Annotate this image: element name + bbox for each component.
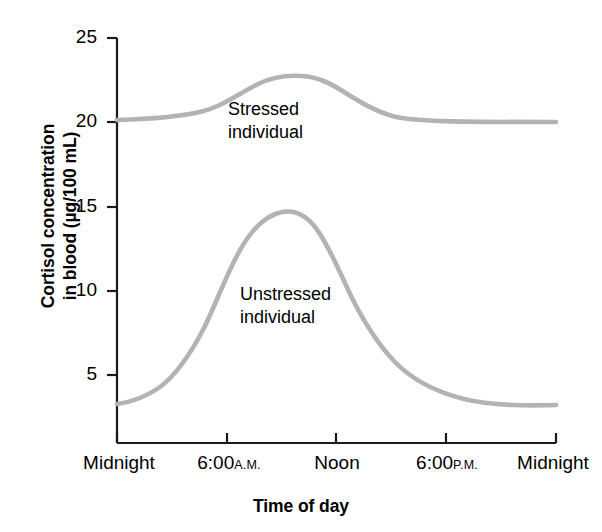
x-tick-label-text: Midnight [83,452,155,473]
x-tick-label-text: Noon [314,452,359,473]
annotation-unstressed-line1: Unstressed [240,283,331,306]
x-tick-label-text: 6:00 [197,452,234,473]
y-tick-label-25: 25 [37,26,97,48]
cortisol-rhythm-figure: Cortisol concentration in blood (µg/100 … [0,0,602,532]
y-tick-marks [107,38,117,375]
curve-stressed [117,76,556,122]
x-tick-label-noon: Noon [314,452,359,474]
x-tick-label-suffix: A.M. [234,458,261,472]
y-tick-label-15: 15 [37,195,97,217]
y-tick-label-20: 20 [37,110,97,132]
y-tick-label-10: 10 [37,279,97,301]
annotation-unstressed: Unstressed individual [240,283,331,329]
curve-unstressed [117,211,556,405]
x-tick-label-text: 6:00 [416,452,453,473]
x-tick-label-midnight-start: Midnight [83,452,155,474]
annotation-stressed-line1: Stressed [228,98,303,121]
annotation-stressed-line2: individual [228,121,303,144]
x-tick-label-6pm: 6:00P.M. [416,452,478,474]
y-tick-label-5: 5 [37,363,97,385]
annotation-unstressed-line2: individual [240,306,331,329]
x-tick-label-suffix: P.M. [453,458,478,472]
annotation-stressed: Stressed individual [228,98,303,144]
x-tick-label-midnight-end: Midnight [517,452,589,474]
x-tick-label-text: Midnight [517,452,589,473]
x-axis-title: Time of day [0,496,602,517]
x-tick-label-6am: 6:00A.M. [197,452,260,474]
x-tick-marks [117,433,556,443]
